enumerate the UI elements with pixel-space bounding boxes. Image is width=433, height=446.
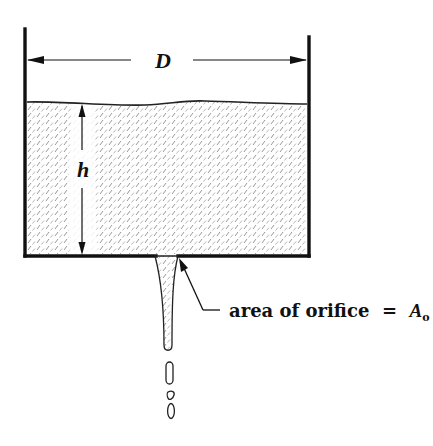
droplets xyxy=(166,362,174,419)
droplet-1 xyxy=(166,362,173,384)
orifice-subscript: o xyxy=(422,311,429,324)
liquid-body xyxy=(27,100,307,256)
orifice-label-text: area of orifice = xyxy=(229,300,410,321)
liquid-jet xyxy=(155,256,178,350)
droplet-2 xyxy=(167,391,174,399)
droplet-3 xyxy=(168,404,175,419)
orifice-label: area of orifice = Ao xyxy=(229,300,430,324)
tank-orifice-diagram: D h area of orifice = Ao xyxy=(0,0,433,446)
orifice-leader xyxy=(179,258,220,310)
orifice-symbol: A xyxy=(409,300,423,321)
diameter-label: D xyxy=(154,48,171,73)
height-label: h xyxy=(77,157,89,182)
